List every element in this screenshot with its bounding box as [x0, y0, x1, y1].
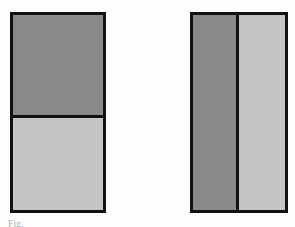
- right-figure-right-panel: [239, 15, 285, 210]
- right-figure: [190, 12, 288, 213]
- figure-page: Fig.: [0, 0, 295, 227]
- figure-caption: Fig.: [8, 219, 289, 227]
- right-figure-left-panel: [193, 15, 236, 210]
- left-figure: [10, 12, 106, 213]
- left-figure-bottom-panel: [13, 118, 103, 210]
- left-figure-top-panel: [13, 15, 103, 115]
